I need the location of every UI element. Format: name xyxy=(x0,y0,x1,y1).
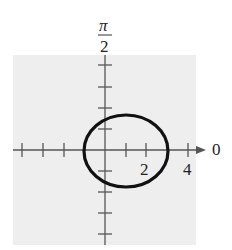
x-tick-label-2: 2 xyxy=(140,161,149,178)
polar-graph xyxy=(0,0,232,250)
polar-axis-label: 0 xyxy=(212,141,221,158)
vertical-axis-label-numerator: π xyxy=(99,17,108,34)
vertical-axis-label-denominator: 2 xyxy=(100,38,109,55)
polar-axis-arrow-icon xyxy=(196,146,206,154)
x-tick-label-4: 4 xyxy=(183,161,192,178)
